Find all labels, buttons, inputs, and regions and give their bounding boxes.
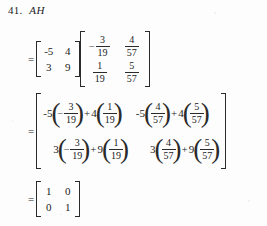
denominator: 19 bbox=[96, 46, 110, 58]
denominator: 19 bbox=[93, 72, 107, 84]
scan-speckle bbox=[214, 12, 216, 14]
fraction: 3 19 bbox=[70, 138, 84, 161]
plus-operator: + bbox=[90, 143, 96, 155]
numerator: 3 bbox=[73, 138, 82, 149]
matrix-h-cell-12-fraction: 4 57 bbox=[125, 35, 139, 58]
matrix-expanded-cell-11: -5 − 3 19 + 4 bbox=[39, 95, 126, 131]
product-term-2: 4 5 57 bbox=[178, 102, 209, 125]
denominator: 57 bbox=[151, 113, 165, 125]
matrix-h-cell-22: 5 57 bbox=[115, 59, 147, 85]
step-1-row: = -5 4 3 9 − 3 bbox=[28, 31, 150, 87]
paren-group: 4 57 bbox=[145, 102, 170, 125]
product-term-2: 9 5 57 bbox=[189, 138, 220, 161]
paren-group: 1 19 bbox=[103, 138, 128, 161]
problem-header: 41.AH bbox=[8, 4, 45, 16]
denominator: 57 bbox=[162, 149, 176, 161]
numerator: 5 bbox=[192, 102, 201, 113]
paren-group: 1 19 bbox=[97, 102, 122, 125]
numerator: 3 bbox=[98, 35, 107, 46]
product-term-1: -5 − 3 19 bbox=[43, 102, 83, 125]
matrix-a: -5 4 3 9 bbox=[36, 41, 80, 77]
fraction-sign: − bbox=[64, 144, 70, 155]
matrix-h-cell-21-fraction: 1 19 bbox=[93, 61, 107, 84]
problem-number: 41. bbox=[8, 4, 22, 16]
fraction: 1 19 bbox=[103, 102, 117, 125]
equals-sign-1: = bbox=[28, 53, 34, 65]
matrix-h-cell-22-fraction: 5 57 bbox=[125, 61, 139, 84]
matrix-a-cell-21: 3 bbox=[39, 59, 58, 75]
matrix-identity-cell-12: 0 bbox=[58, 183, 77, 199]
fraction: 4 57 bbox=[162, 138, 176, 161]
matrix-h: − 3 19 4 57 bbox=[80, 31, 150, 87]
matrix-expanded-cell-22: 3 4 57 + 9 bbox=[132, 131, 223, 167]
paren-group: 4 57 bbox=[156, 138, 181, 161]
denominator: 57 bbox=[200, 149, 214, 161]
matrix-expanded: -5 − 3 19 + 4 bbox=[36, 93, 226, 169]
matrix-expanded-row-2: 3 − 3 19 + 9 bbox=[39, 131, 223, 167]
matrix-a-cell-11: -5 bbox=[39, 43, 58, 59]
fraction: 3 19 bbox=[64, 102, 78, 125]
numerator: 4 bbox=[153, 102, 162, 113]
matrix-h-cell-11-sign: − bbox=[89, 41, 95, 52]
matrix-h-row-1: − 3 19 4 57 bbox=[83, 33, 147, 59]
paren-group: − 3 19 bbox=[52, 102, 83, 125]
matrix-identity: 1 0 0 1 bbox=[36, 181, 80, 217]
fraction-sign: − bbox=[57, 108, 63, 119]
numerator: 5 bbox=[127, 61, 136, 72]
numerator: 4 bbox=[164, 138, 173, 149]
fraction: 1 19 bbox=[109, 138, 123, 161]
product-term-1: 3 − 3 19 bbox=[53, 138, 89, 161]
numerator: 1 bbox=[105, 102, 114, 113]
step-2-row: = -5 − 3 19 bbox=[28, 93, 226, 169]
matrix-a-row-2: 3 9 bbox=[39, 59, 77, 75]
product-term-1: -5 4 57 bbox=[136, 102, 170, 125]
numerator: 3 bbox=[67, 102, 76, 113]
scan-speckle bbox=[12, 120, 13, 122]
matrix-expanded-cell-12: -5 4 57 + 4 bbox=[126, 95, 213, 131]
matrix-h-cell-11: − 3 19 bbox=[83, 33, 115, 59]
matrix-a-cell-12: 4 bbox=[58, 43, 77, 59]
matrix-identity-cell-11: 1 bbox=[39, 183, 58, 199]
denominator: 19 bbox=[109, 149, 123, 161]
denominator: 19 bbox=[64, 113, 78, 125]
denominator: 57 bbox=[125, 72, 139, 84]
paren-group: 5 57 bbox=[184, 102, 209, 125]
fraction: 5 57 bbox=[200, 138, 214, 161]
matrix-h-cell-11-fraction: 3 19 bbox=[96, 35, 110, 58]
product-term-2: 4 1 19 bbox=[91, 102, 122, 125]
plus-operator: + bbox=[84, 107, 90, 119]
matrix-identity-row-1: 1 0 bbox=[39, 183, 77, 199]
denominator: 19 bbox=[70, 149, 84, 161]
matrix-identity-row-2: 0 1 bbox=[39, 199, 77, 215]
matrix-h-cell-12: 4 57 bbox=[115, 33, 147, 59]
matrix-expanded-cell-21: 3 − 3 19 + 9 bbox=[39, 131, 132, 167]
problem-expression: AH bbox=[29, 4, 45, 16]
plus-operator: + bbox=[171, 107, 177, 119]
matrix-identity-cell-21: 0 bbox=[39, 199, 58, 215]
product-term-1: 3 4 57 bbox=[150, 138, 181, 161]
equals-sign-3: = bbox=[28, 193, 34, 205]
matrix-a-row-1: -5 4 bbox=[39, 43, 77, 59]
scan-speckle bbox=[248, 200, 250, 202]
numerator: 1 bbox=[112, 138, 121, 149]
numerator: 5 bbox=[203, 138, 212, 149]
matrix-identity-cell-22: 1 bbox=[58, 199, 77, 215]
numerator: 1 bbox=[95, 61, 104, 72]
plus-operator: + bbox=[182, 143, 188, 155]
product-term-2: 9 1 19 bbox=[98, 138, 129, 161]
denominator: 19 bbox=[103, 113, 117, 125]
matrix-expanded-row-1: -5 − 3 19 + 4 bbox=[39, 95, 223, 131]
step-3-row: = 1 0 0 1 bbox=[28, 181, 80, 217]
denominator: 57 bbox=[190, 113, 204, 125]
matrix-a-cell-22: 9 bbox=[58, 59, 77, 75]
fraction: 5 57 bbox=[190, 102, 204, 125]
textbook-solution-page: 41.AH = -5 4 3 9 − bbox=[0, 0, 267, 226]
equals-sign-2: = bbox=[28, 125, 34, 137]
numerator: 4 bbox=[127, 35, 136, 46]
matrix-h-row-2: 1 19 5 57 bbox=[83, 59, 147, 85]
fraction: 4 57 bbox=[151, 102, 165, 125]
paren-group: − 3 19 bbox=[59, 138, 90, 161]
denominator: 57 bbox=[125, 46, 139, 58]
matrix-h-cell-21: 1 19 bbox=[83, 59, 115, 85]
paren-group: 5 57 bbox=[194, 138, 219, 161]
